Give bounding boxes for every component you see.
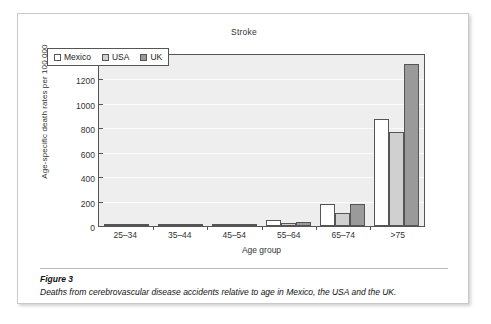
chart: Stroke Age-specific death rates per 100 … [18, 14, 470, 264]
legend: Mexico USA UK [47, 48, 169, 66]
bar-mexico [104, 224, 119, 226]
bar-usa [119, 224, 134, 226]
legend-swatch-mexico [54, 54, 61, 61]
bar-uk [350, 204, 365, 226]
bar-usa [227, 224, 242, 226]
chart-title: Stroke [18, 27, 470, 37]
bar-mexico [266, 220, 281, 226]
y-axis-tick-mark [99, 104, 103, 105]
bar-usa [173, 224, 188, 226]
bar-mexico [158, 224, 173, 226]
bar-mexico [374, 119, 389, 226]
y-axis-tick: 600 [81, 144, 99, 162]
bar-uk [134, 224, 149, 226]
caption-text: Deaths from cerebrovascular disease acci… [40, 287, 452, 298]
y-axis-tick: 200 [81, 193, 99, 211]
bar-group [99, 55, 153, 226]
x-axis-tick-label: 25–34 [98, 230, 153, 240]
x-axis-tick-label: 65–74 [316, 230, 371, 240]
bar-usa [389, 132, 404, 226]
y-axis-tick-label: 400 [81, 174, 99, 184]
bar-group [207, 55, 261, 226]
y-axis-tick-label: 1000 [76, 101, 99, 111]
y-axis-tick: 400 [81, 168, 99, 186]
y-axis-tick: 1200 [76, 70, 99, 88]
figure-card: Stroke Age-specific death rates per 100 … [17, 13, 469, 304]
x-axis-title: Age group [98, 245, 425, 255]
bar-usa [335, 213, 350, 226]
bar-group [370, 55, 424, 226]
bar-usa [281, 223, 296, 226]
bar-group [316, 55, 370, 226]
bar-mexico [320, 204, 335, 226]
y-axis-tick-label: 800 [81, 125, 99, 135]
caption-divider [40, 268, 448, 269]
y-axis-tick-mark [99, 79, 103, 80]
bar-mexico [212, 224, 227, 226]
x-axis-tick-label: 55–64 [262, 230, 317, 240]
y-axis-tick: 1000 [76, 95, 99, 113]
y-axis-tick-mark [99, 177, 103, 178]
legend-label-usa: USA [112, 52, 129, 62]
y-axis-tick-mark [99, 153, 103, 154]
legend-item-usa: USA [102, 52, 129, 62]
y-axis-tick-label: 200 [81, 199, 99, 209]
legend-item-uk: UK [140, 52, 162, 62]
plot-inner [99, 55, 424, 226]
y-axis-tick: 800 [81, 119, 99, 137]
legend-label-uk: UK [150, 52, 162, 62]
caption-title: Figure 3 [40, 274, 452, 284]
x-axis-tick-label: 45–54 [207, 230, 262, 240]
y-axis-tick-mark [99, 128, 103, 129]
x-axis-tick-labels: 25–3435–4445–5455–6465–74>75 [98, 230, 425, 240]
legend-swatch-uk [140, 54, 147, 61]
x-axis-tick-label: >75 [371, 230, 426, 240]
bar-uk [242, 224, 257, 226]
x-axis-tick-label: 35–44 [153, 230, 208, 240]
y-axis-tick-mark [99, 202, 103, 203]
y-axis-tick-label: 600 [81, 150, 99, 160]
plot-area: 1400120010008006004002000 [98, 54, 425, 227]
bar-uk [188, 224, 203, 226]
legend-item-mexico: Mexico [54, 52, 91, 62]
bar-groups [99, 55, 424, 226]
y-axis-tick-mark [99, 226, 103, 227]
legend-label-mexico: Mexico [64, 52, 91, 62]
bar-uk [296, 222, 311, 226]
bar-uk [404, 64, 419, 226]
bar-group [262, 55, 316, 226]
legend-swatch-usa [102, 54, 109, 61]
y-axis-tick-label: 1200 [76, 76, 99, 86]
bar-group [153, 55, 207, 226]
figure-caption: Figure 3 Deaths from cerebrovascular dis… [40, 274, 452, 298]
